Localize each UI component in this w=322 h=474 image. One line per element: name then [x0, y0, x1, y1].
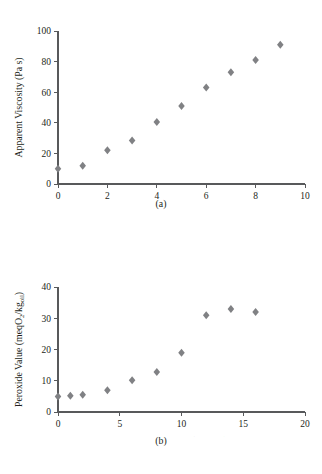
data-point-marker	[55, 392, 62, 400]
y-tick-label: 40	[42, 282, 52, 292]
data-point-marker	[178, 349, 185, 357]
data-point-marker	[79, 391, 86, 399]
x-tick-label: 2	[105, 191, 110, 200]
x-tick-label: 8	[253, 191, 258, 200]
data-point-marker	[203, 311, 210, 319]
data-point-marker	[79, 162, 86, 170]
data-point-marker	[154, 368, 161, 376]
data-point-marker	[277, 41, 284, 49]
x-tick-label: 0	[56, 419, 61, 429]
data-point-marker	[67, 392, 74, 400]
x-tick-label: 5	[117, 419, 122, 429]
x-tick-label: 10	[177, 419, 187, 429]
data-point-marker	[104, 386, 111, 394]
y-tick-label: 80	[42, 57, 52, 67]
y-tick-label: 100	[37, 26, 52, 36]
data-point-marker	[178, 102, 185, 110]
y-tick-label: 40	[42, 118, 52, 128]
x-tick-label: 0	[56, 191, 61, 200]
y-tick-label: 60	[42, 88, 52, 98]
data-point-marker	[203, 84, 210, 92]
data-point-marker	[228, 68, 235, 76]
y-tick-label: 10	[42, 376, 52, 386]
data-point-marker	[252, 56, 259, 64]
data-point-marker	[55, 165, 62, 173]
y-tick-label: 30	[42, 314, 52, 324]
panel-a-caption: (a)	[0, 198, 322, 209]
panel-b-caption: (b)	[0, 435, 322, 446]
scatter-plot-b: 01020304005101520Storage Time (months)Pe…	[0, 237, 322, 437]
y-tick-label: 20	[42, 149, 52, 159]
x-tick-label: 6	[204, 191, 209, 200]
data-point-marker	[252, 308, 259, 316]
x-axis-title: Storage Time (months)	[136, 435, 226, 437]
y-axis-title: Peroxide Value (meqO2/kgoil)	[13, 292, 25, 407]
panel-b: 01020304005101520Storage Time (months)Pe…	[0, 237, 322, 474]
x-tick-label: 20	[300, 419, 310, 429]
data-point-marker	[129, 136, 136, 144]
y-tick-label: 20	[42, 345, 52, 355]
y-axis-title: Apparent Viscosity (Pa s)	[13, 57, 25, 157]
data-point-marker	[154, 118, 161, 126]
y-tick-label: 0	[46, 179, 51, 189]
x-tick-label: 10	[300, 191, 310, 200]
data-point-marker	[104, 146, 111, 154]
y-tick-label: 0	[46, 407, 51, 417]
x-tick-label: 15	[239, 419, 249, 429]
scatter-plot-a: 0204060801000246810Storage Time (months)…	[0, 0, 322, 200]
data-point-marker	[129, 376, 136, 384]
panel-a: 0204060801000246810Storage Time (months)…	[0, 0, 322, 237]
data-point-marker	[228, 305, 235, 313]
